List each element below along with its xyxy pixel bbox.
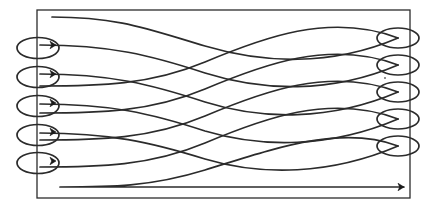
left-turnaround-loop-group [17,38,59,174]
scan-artifact-group [384,77,386,79]
sweep-pass-p4 [40,54,398,113]
diagram-canvas [0,0,443,211]
survey-area-boundary [37,10,410,198]
sweep-pass-p3 [40,45,398,87]
serpentine-path-diagram [0,0,443,211]
arrowhead-A5 [50,157,56,164]
direction-arrowhead-group [50,41,404,190]
left-turn-loop-L1 [17,38,59,59]
sweep-pass-p6 [40,81,398,140]
scan-speck-S1 [384,77,386,79]
sweep-pass-p10 [60,138,404,187]
left-turn-loop-L4 [17,125,59,146]
left-turn-loop-L2 [17,67,59,88]
serpentine-sweep-path-group [40,17,404,187]
